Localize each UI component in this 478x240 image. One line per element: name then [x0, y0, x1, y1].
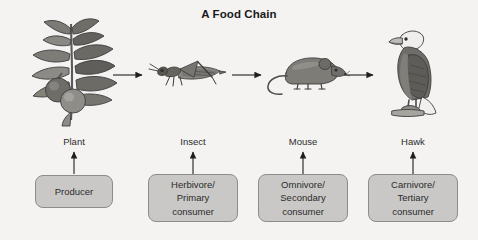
role-box-producer-line-1: Producer: [55, 185, 94, 199]
role-box-producer[interactable]: Producer: [35, 175, 113, 208]
role-box-herbivore-line-1: Herbivore/: [171, 178, 215, 192]
role-box-carnivore[interactable]: Carnivore/ Tertiary consumer: [368, 174, 458, 222]
role-box-omnivore-line-3: consumer: [282, 205, 324, 219]
role-box-omnivore-line-1: Omnivore/: [281, 178, 325, 192]
role-box-herbivore-line-3: consumer: [172, 205, 214, 219]
role-box-carnivore-line-1: Carnivore/: [391, 178, 435, 192]
food-chain-diagram: A Food Chain: [0, 0, 478, 240]
role-box-herbivore-line-2: Primary: [177, 191, 210, 205]
role-box-carnivore-line-3: consumer: [392, 205, 434, 219]
organism-label-hawk: Hawk: [368, 136, 458, 147]
role-box-omnivore-line-2: Secondary: [280, 191, 325, 205]
role-box-omnivore[interactable]: Omnivore/ Secondary consumer: [258, 174, 348, 222]
role-box-carnivore-line-2: Tertiary: [397, 191, 428, 205]
organism-label-plant: Plant: [29, 136, 119, 147]
organism-label-insect: Insect: [148, 136, 238, 147]
role-box-herbivore[interactable]: Herbivore/ Primary consumer: [148, 174, 238, 222]
organism-label-mouse: Mouse: [258, 136, 348, 147]
